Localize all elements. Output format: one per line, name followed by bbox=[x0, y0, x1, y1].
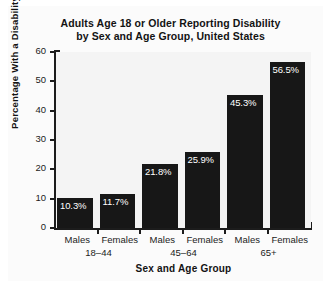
y-axis-title: Percentage With a Disability bbox=[9, 0, 20, 163]
x-axis-group-label: 65+ bbox=[226, 247, 311, 258]
bar-value-label: 11.7% bbox=[103, 196, 129, 207]
x-axis-category-label: Females bbox=[263, 234, 318, 245]
bar: 10.3% bbox=[57, 198, 93, 228]
bar-value-label: 45.3% bbox=[230, 97, 256, 108]
bar-value-label: 21.8% bbox=[145, 166, 171, 177]
y-axis-tick-label: 50 bbox=[35, 74, 46, 85]
bar-value-label: 56.5% bbox=[273, 64, 299, 75]
y-axis-tick-label: 60 bbox=[35, 45, 46, 56]
bar: 45.3% bbox=[227, 95, 263, 228]
y-axis-tick-label: 20 bbox=[35, 162, 46, 173]
y-axis-tick-label: 10 bbox=[35, 192, 46, 203]
y-axis-tick-label: 0 bbox=[41, 221, 46, 232]
chart-figure: Adults Age 18 or Older Reporting Disabil… bbox=[0, 0, 331, 293]
bar: 21.8% bbox=[142, 164, 178, 228]
bar: 56.5% bbox=[270, 62, 306, 228]
bar: 25.9% bbox=[185, 152, 221, 228]
bar-value-label: 10.3% bbox=[60, 200, 86, 211]
y-axis-tick-label: 30 bbox=[35, 133, 46, 144]
chart-title-line-1: Adults Age 18 or Older Reporting Disabil… bbox=[28, 17, 313, 30]
x-axis-title: Sex and Age Group bbox=[56, 263, 311, 274]
chart-title: Adults Age 18 or Older Reporting Disabil… bbox=[28, 17, 313, 43]
x-axis-group-label: 18–44 bbox=[56, 247, 141, 258]
bar-value-label: 25.9% bbox=[188, 154, 214, 165]
chart-title-line-2: by Sex and Age Group, United States bbox=[28, 30, 313, 43]
x-axis-group-label: 45–64 bbox=[141, 247, 226, 258]
plot-area: 10.3%11.7%21.8%25.9%45.3%56.5% bbox=[56, 52, 311, 228]
y-axis-tick-label: 40 bbox=[35, 104, 46, 115]
bar: 11.7% bbox=[100, 194, 136, 228]
